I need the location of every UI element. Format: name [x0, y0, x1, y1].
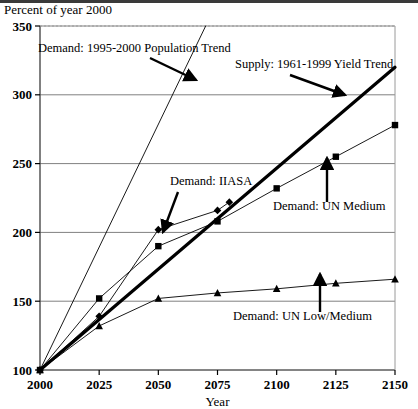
annotation-label: Supply: 1961-1999 Yield Trend: [235, 57, 394, 71]
marker-square: [214, 218, 220, 224]
x-tick-label: 2125: [323, 377, 350, 392]
y-tick-label: 150: [13, 294, 33, 309]
annotation-label: Demand: UN Low/Medium: [233, 309, 372, 323]
axis-titles: Year: [206, 394, 231, 409]
chart-page: Percent of year 2000 1001502002503003502…: [0, 0, 418, 409]
x-tick-label: 2150: [382, 377, 408, 392]
annotation-label: Demand: IIASA: [170, 174, 252, 188]
x-tick-label: 2025: [86, 377, 113, 392]
x-tick-label: 2075: [205, 377, 232, 392]
y-tick-label: 200: [13, 225, 33, 240]
annotation-label: Demand: 1995-2000 Population Trend: [38, 41, 231, 55]
annotation-demand-un-low-medium: Demand: UN Low/Medium: [233, 274, 372, 323]
x-tick-label: 2100: [264, 377, 290, 392]
marker-square: [155, 243, 161, 249]
annotation-demand-un-medium: Demand: UN Medium: [273, 158, 386, 213]
x-axis-title: Year: [206, 394, 231, 409]
annotations: Demand: 1995-2000 Population TrendSupply…: [38, 41, 394, 323]
annotation-arrow: [290, 75, 345, 95]
annotation-label: Demand: UN Medium: [273, 199, 386, 213]
marker-square: [273, 185, 279, 191]
series-line: [40, 202, 229, 370]
marker-diamond: [214, 207, 222, 215]
y-tick-label: 250: [13, 156, 33, 171]
marker-square: [333, 154, 339, 160]
series-line: [40, 26, 206, 370]
marker-square: [96, 295, 102, 301]
x-tick-label: 2000: [27, 377, 53, 392]
marker-square: [392, 122, 398, 128]
annotation-demand-1995-2000-population-trend: Demand: 1995-2000 Population Trend: [38, 41, 231, 80]
y-tick-label: 350: [13, 19, 33, 34]
chart-canvas: 1001502002503003502000202520502075210021…: [0, 0, 418, 409]
x-tick-label: 2050: [145, 377, 171, 392]
series-demand-1995-2000-population-trend: [40, 26, 206, 370]
series-line: [40, 125, 395, 370]
y-tick-label: 300: [13, 87, 33, 102]
y-tick-label: 100: [13, 363, 33, 378]
series-demand-un-medium: [37, 122, 398, 373]
marker-triangle: [391, 275, 399, 282]
